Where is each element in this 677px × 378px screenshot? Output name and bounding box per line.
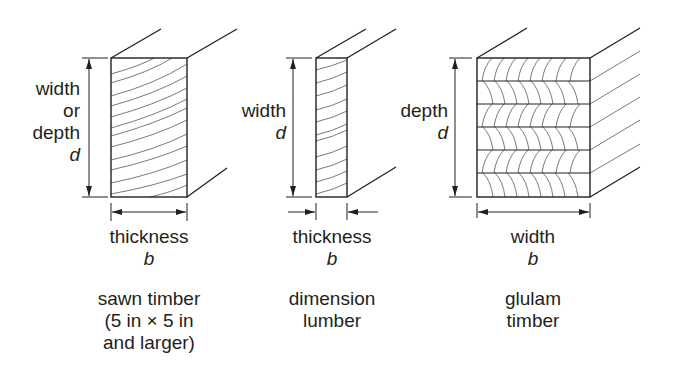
thickness-dimension bbox=[288, 203, 378, 220]
dimension-caption: dimension lumber bbox=[257, 288, 407, 332]
width-label: width bbox=[483, 226, 583, 248]
side-label-line: width bbox=[220, 100, 286, 122]
caption-line: and larger) bbox=[74, 332, 224, 354]
glulam-timber-section bbox=[449, 28, 640, 218]
caption-line: (5 in × 5 in bbox=[74, 310, 224, 332]
width-dimension bbox=[286, 58, 312, 197]
lamination-side-lines bbox=[590, 51, 640, 173]
glulam-bottom-label: width b bbox=[483, 226, 583, 270]
symbol-b: b bbox=[99, 248, 199, 270]
sawn-bottom-label: thickness b bbox=[99, 226, 199, 270]
width-dimension bbox=[477, 203, 590, 218]
sawn-side-label: width or depth d bbox=[10, 78, 80, 166]
symbol-d: d bbox=[380, 122, 448, 144]
glulam-caption: glulam timber bbox=[458, 288, 608, 332]
depth-dimension bbox=[449, 58, 472, 197]
sawn-caption: sawn timber (5 in × 5 in and larger) bbox=[74, 288, 224, 354]
dimension-side-label: width d bbox=[220, 100, 286, 144]
wood-grain-lines bbox=[111, 58, 187, 197]
symbol-b: b bbox=[483, 248, 583, 270]
dimension-bottom-label: thickness b bbox=[282, 226, 382, 270]
caption-line: lumber bbox=[257, 310, 407, 332]
depth-dimension bbox=[82, 58, 108, 197]
side-label-line: depth bbox=[10, 122, 80, 144]
wood-grain-lines bbox=[316, 60, 347, 194]
side-label-line: or bbox=[10, 100, 80, 122]
caption-line: timber bbox=[458, 310, 608, 332]
thickness-label: thickness bbox=[99, 226, 199, 248]
caption-line: dimension bbox=[257, 288, 407, 310]
symbol-d: d bbox=[10, 144, 80, 166]
side-label-line: width bbox=[10, 78, 80, 100]
thickness-dimension bbox=[111, 203, 187, 221]
caption-line: sawn timber bbox=[74, 288, 224, 310]
symbol-d: d bbox=[220, 122, 286, 144]
side-label-line: depth bbox=[380, 100, 448, 122]
symbol-b: b bbox=[282, 248, 382, 270]
glulam-side-label: depth d bbox=[380, 100, 448, 144]
sawn-timber-section bbox=[82, 29, 237, 221]
thickness-label: thickness bbox=[282, 226, 382, 248]
caption-line: glulam bbox=[458, 288, 608, 310]
